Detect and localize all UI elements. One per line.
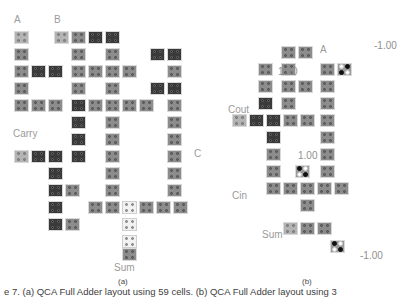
quantum-dot-tl: [68, 186, 71, 189]
quantum-dot-tl: [51, 67, 54, 70]
quantum-dot-tl: [303, 224, 306, 227]
quantum-dot-br: [275, 139, 278, 142]
quantum-dot-br: [176, 90, 179, 93]
quantum-dot-tr: [131, 203, 134, 206]
quantum-dot-tl: [74, 50, 77, 53]
quantum-dot-br: [159, 90, 162, 93]
quantum-dot-tl: [303, 184, 306, 187]
quantum-dot-tr: [80, 67, 83, 70]
quantum-dot-br: [176, 158, 179, 161]
qca-cell-dots: [106, 83, 119, 94]
quantum-dot-bl: [303, 190, 306, 193]
qca-cell: [283, 182, 298, 195]
qca-cell-dots: [49, 202, 62, 213]
quantum-dot-bl: [51, 107, 54, 110]
quantum-dot-tr: [80, 50, 83, 53]
quantum-dot-tr: [290, 82, 293, 85]
qca-cell: [14, 150, 29, 163]
quantum-dot-br: [307, 54, 310, 57]
quantum-dot-tr: [292, 116, 295, 119]
quantum-dot-br: [329, 156, 332, 159]
quantum-dot-br: [80, 73, 83, 76]
quantum-dot-tl: [170, 101, 173, 104]
qca-cell-dots: [140, 202, 153, 213]
quantum-dot-bl: [108, 39, 111, 42]
quantum-dot-tr: [159, 50, 162, 53]
quantum-dot-tr: [114, 135, 117, 138]
qca-cell-dots: [89, 66, 102, 77]
quantum-dot-bl: [320, 230, 323, 233]
qca-cell-dots: [318, 223, 331, 234]
quantum-dot-bl: [153, 56, 156, 59]
quantum-dot-tr: [40, 101, 43, 104]
qca-cell-dots: [106, 134, 119, 145]
qca-cell-dots: [157, 202, 170, 213]
quantum-dot-br: [131, 209, 134, 212]
quantum-dot-br: [63, 39, 66, 42]
qca-cell: [281, 80, 296, 93]
quantum-dot-bl: [68, 192, 71, 195]
qca-cell: [320, 80, 335, 93]
quantum-dot-br: [329, 122, 332, 125]
quantum-dot-tl: [108, 186, 111, 189]
quantum-dot-tr: [23, 101, 26, 104]
quantum-dot-tr: [80, 101, 83, 104]
quantum-dot-tr: [57, 169, 60, 172]
qca-cell-dots: [233, 115, 246, 126]
quantum-dot-tl: [261, 99, 264, 102]
quantum-dot-tl: [142, 101, 145, 104]
qca-cell: [266, 148, 281, 161]
quantum-dot-bl: [159, 209, 162, 212]
quantum-dot-tr: [131, 250, 134, 253]
qca-cell-dots: [15, 100, 28, 111]
quantum-dot-tr: [176, 50, 179, 53]
quantum-dot-tr: [131, 101, 134, 104]
quantum-dot-tr: [329, 116, 332, 119]
qca-cell: [31, 99, 46, 112]
quantum-dot-tl: [17, 84, 20, 87]
quantum-dot-tr: [329, 99, 332, 102]
qca-cell-dots: [282, 47, 295, 58]
quantum-dot-tl: [17, 152, 20, 155]
qca-cell: [156, 201, 171, 214]
qca-cell: [105, 150, 120, 163]
qca-cell-dots: [32, 66, 45, 77]
qca-cell-dots: [15, 32, 28, 43]
quantum-dot-tl: [176, 203, 179, 206]
qca-cell: [122, 65, 137, 78]
qca-cell: [320, 97, 335, 110]
qca-cell-dots: [89, 202, 102, 213]
quantum-dot-bl: [284, 54, 287, 57]
quantum-dot-br: [40, 158, 43, 161]
quantum-dot-tr: [63, 33, 66, 36]
quantum-dot-tl: [91, 101, 94, 104]
qca-cell: [258, 97, 273, 110]
qca-cell: [88, 99, 103, 112]
quantum-dot-br: [303, 172, 308, 177]
quantum-dot-tl: [170, 118, 173, 121]
quantum-dot-br: [275, 190, 278, 193]
quantum-dot-tl: [320, 184, 323, 187]
qca-cell: [281, 46, 296, 59]
qca-cell: [31, 150, 46, 163]
quantum-dot-tl: [108, 169, 111, 172]
qca-cell-dots: [123, 249, 136, 260]
quantum-dot-tl: [125, 250, 128, 253]
quantum-dot-tr: [80, 135, 83, 138]
quantum-dot-tr: [329, 65, 332, 68]
quantum-dot-tr: [275, 116, 278, 119]
quantum-dot-tr: [307, 48, 310, 51]
quantum-dot-tl: [269, 116, 272, 119]
quantum-dot-tr: [290, 48, 293, 51]
qca-cell: [320, 165, 335, 178]
quantum-dot-bl: [284, 105, 287, 108]
quantum-dot-br: [329, 71, 332, 74]
qca-cell: [320, 63, 335, 76]
quantum-dot-tl: [332, 241, 337, 246]
quantum-dot-br: [176, 192, 179, 195]
qca-cell-dots: [335, 183, 348, 194]
qca-cell: [298, 46, 313, 59]
quantum-dot-tl: [235, 116, 238, 119]
quantum-dot-tr: [182, 203, 185, 206]
signal-label-sum: Sum: [114, 262, 135, 273]
